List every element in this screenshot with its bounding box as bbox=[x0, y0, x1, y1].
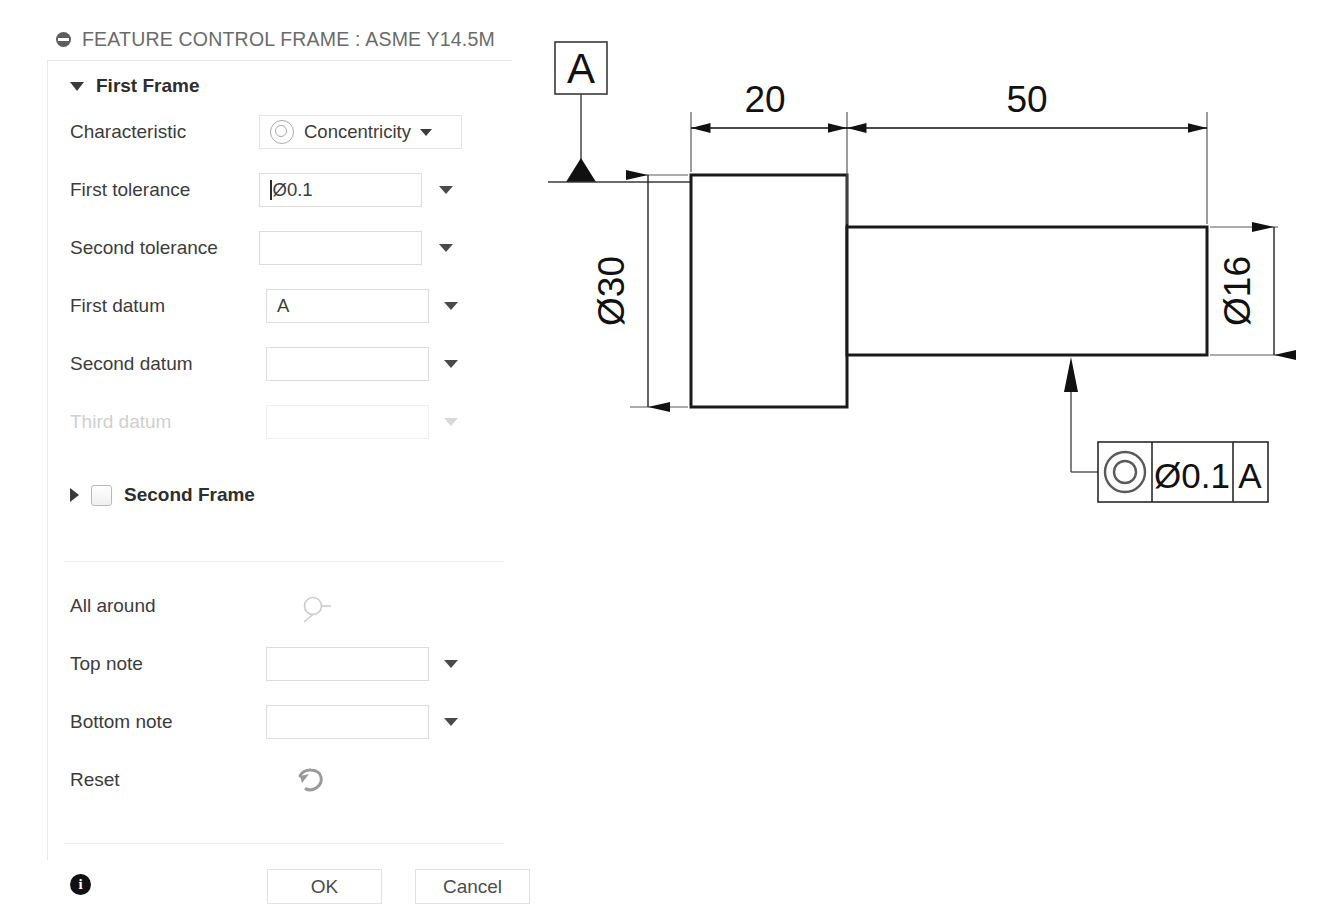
minus-circle-icon bbox=[56, 32, 71, 47]
field-row-third-datum: Third datum bbox=[48, 399, 513, 445]
first-tolerance-value: Ø0.1 bbox=[260, 179, 313, 201]
dialog-titlebar: FEATURE CONTROL FRAME : ASME Y14.5M bbox=[38, 22, 512, 56]
section-header-first-frame[interactable]: First Frame bbox=[70, 75, 199, 97]
flange-rectangle bbox=[691, 175, 847, 407]
label-second-tolerance: Second tolerance bbox=[70, 237, 218, 259]
field-row-reset: Reset bbox=[48, 757, 513, 803]
field-row-second-datum: Second datum bbox=[48, 341, 513, 387]
datum-label: A bbox=[567, 45, 595, 92]
datum-triangle bbox=[566, 158, 596, 182]
third-datum-input bbox=[266, 405, 429, 439]
section-label-first-frame: First Frame bbox=[96, 75, 199, 97]
datum-feature-symbol-a: A bbox=[548, 42, 710, 182]
section-header-second-frame[interactable]: Second Frame bbox=[70, 484, 255, 506]
top-note-input[interactable] bbox=[266, 647, 429, 681]
label-first-datum: First datum bbox=[70, 295, 165, 317]
chevron-down-icon bbox=[70, 82, 84, 91]
section-label-second-frame: Second Frame bbox=[124, 484, 255, 506]
field-row-second-tolerance: Second tolerance bbox=[48, 225, 513, 271]
feature-control-frame-annotation: Ø0.1 A bbox=[1098, 442, 1268, 502]
dimension-label-d16: Ø16 bbox=[1217, 256, 1258, 326]
characteristic-dropdown[interactable]: Concentricity bbox=[259, 115, 462, 149]
dimension-label-50: 50 bbox=[1006, 79, 1047, 120]
divider bbox=[64, 843, 504, 844]
dimension-20: 20 bbox=[691, 79, 847, 128]
chevron-down-icon bbox=[420, 129, 432, 136]
second-datum-input[interactable] bbox=[266, 347, 429, 381]
part-drawing-svg: A 20 50 bbox=[530, 0, 1324, 887]
top-note-dropdown-arrow[interactable] bbox=[444, 660, 458, 668]
shaft-rectangle bbox=[847, 227, 1207, 355]
undo-arrow-icon[interactable] bbox=[291, 763, 331, 797]
dimension-label-20: 20 bbox=[744, 79, 785, 120]
part-outline bbox=[691, 175, 1207, 407]
second-tolerance-dropdown-arrow[interactable] bbox=[439, 244, 453, 252]
first-tolerance-dropdown-arrow[interactable] bbox=[439, 186, 453, 194]
ok-button[interactable]: OK bbox=[267, 869, 382, 904]
second-tolerance-input[interactable] bbox=[259, 231, 422, 265]
second-datum-dropdown-arrow[interactable] bbox=[444, 360, 458, 368]
dimension-diameter-16: Ø16 bbox=[1217, 227, 1274, 355]
third-datum-dropdown-arrow bbox=[444, 418, 458, 426]
first-datum-input[interactable]: A bbox=[266, 289, 429, 323]
dimension-label-d30: Ø30 bbox=[591, 256, 632, 326]
label-first-tolerance: First tolerance bbox=[70, 179, 190, 201]
first-tolerance-input[interactable]: Ø0.1 bbox=[259, 173, 422, 207]
fcf-tolerance-value: Ø0.1 bbox=[1154, 456, 1230, 495]
info-icon[interactable]: i bbox=[70, 874, 91, 895]
label-characteristic: Characteristic bbox=[70, 121, 186, 143]
first-datum-dropdown-arrow[interactable] bbox=[444, 302, 458, 310]
cancel-button[interactable]: Cancel bbox=[415, 869, 530, 904]
label-third-datum: Third datum bbox=[70, 411, 171, 433]
chevron-right-icon bbox=[70, 488, 79, 502]
bottom-note-dropdown-arrow[interactable] bbox=[444, 718, 458, 726]
field-row-bottom-note: Bottom note bbox=[48, 699, 513, 745]
dialog-title: FEATURE CONTROL FRAME : ASME Y14.5M bbox=[82, 28, 495, 51]
cad-drawing-canvas: A 20 50 bbox=[530, 0, 1324, 887]
field-row-all-around: All around bbox=[48, 583, 513, 629]
first-datum-value: A bbox=[267, 295, 289, 317]
leader-arrowhead bbox=[1064, 357, 1078, 392]
label-bottom-note: Bottom note bbox=[70, 711, 172, 733]
bottom-note-input[interactable] bbox=[266, 705, 429, 739]
all-around-icon[interactable] bbox=[291, 593, 335, 623]
fcf-datum-value: A bbox=[1238, 456, 1262, 495]
dialog-body: First Frame Characteristic Concentricity… bbox=[47, 60, 512, 860]
field-row-top-note: Top note bbox=[48, 641, 513, 687]
label-second-datum: Second datum bbox=[70, 353, 193, 375]
label-reset: Reset bbox=[70, 769, 120, 791]
field-row-characteristic: Characteristic Concentricity bbox=[48, 109, 513, 155]
label-all-around: All around bbox=[70, 595, 156, 617]
field-row-first-datum: First datum A bbox=[48, 283, 513, 329]
field-row-first-tolerance: First tolerance Ø0.1 bbox=[48, 167, 513, 213]
second-frame-checkbox[interactable] bbox=[91, 485, 112, 506]
divider bbox=[64, 561, 504, 562]
fcf-leader bbox=[1064, 357, 1098, 472]
dimension-diameter-30: Ø30 bbox=[591, 175, 648, 407]
dimension-50: 50 bbox=[847, 79, 1207, 128]
label-top-note: Top note bbox=[70, 653, 143, 675]
feature-control-frame-dialog: FEATURE CONTROL FRAME : ASME Y14.5M Firs… bbox=[38, 22, 512, 860]
text-cursor bbox=[270, 180, 272, 200]
characteristic-value: Concentricity bbox=[294, 121, 411, 143]
concentricity-icon bbox=[270, 120, 294, 144]
